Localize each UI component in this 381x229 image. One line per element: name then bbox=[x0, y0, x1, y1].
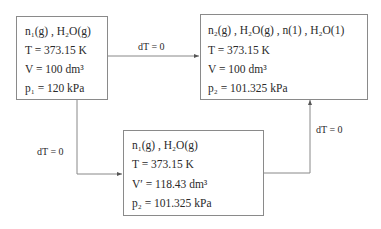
state-initial-pressure: p₁ = 120 kPa bbox=[25, 82, 84, 95]
state-initial-temperature: T = 373.15 K bbox=[25, 44, 87, 57]
state-final-species: n₂(g) , H₂O(g) , n(1) , H₂O(1) bbox=[208, 24, 344, 37]
state-intermediate-species: n₁(g) , H₂O(g) bbox=[132, 139, 198, 152]
state-initial-box: n₁(g) , H₂O(g) T = 373.15 K V = 100 dm³ … bbox=[16, 16, 108, 100]
edge-label-left: dT = 0 bbox=[37, 146, 64, 157]
state-intermediate-box: n₁(g) , H₂O(g) T = 373.15 K V′ = 118.43 … bbox=[123, 130, 264, 216]
state-final-pressure: p₂ = 101.325 kPa bbox=[208, 82, 288, 95]
state-intermediate-temperature: T = 373.15 K bbox=[132, 158, 194, 171]
state-intermediate-pressure: p₂ = 101.325 kPa bbox=[132, 197, 212, 210]
state-initial-species: n₁(g) , H₂O(g) bbox=[25, 25, 91, 38]
state-intermediate-volume: V′ = 118.43 dm³ bbox=[132, 178, 207, 191]
state-final-box: n₂(g) , H₂O(g) , n(1) , H₂O(1) T = 373.1… bbox=[200, 14, 368, 100]
state-final-temperature: T = 373.15 K bbox=[208, 44, 270, 57]
edge-label-top: dT = 0 bbox=[138, 41, 165, 52]
state-initial-volume: V = 100 dm³ bbox=[25, 63, 84, 76]
edge-label-right: dT = 0 bbox=[316, 124, 343, 135]
state-final-volume: V = 100 dm³ bbox=[208, 63, 267, 76]
